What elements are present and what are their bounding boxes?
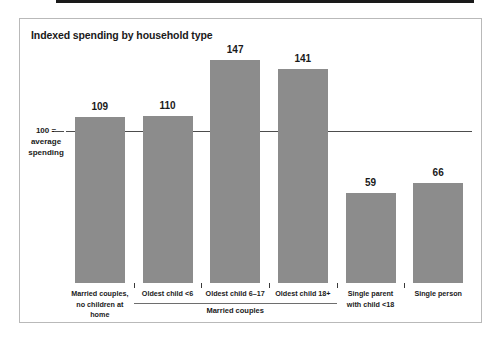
bar [210,60,260,283]
category-label-line: Oldest child <6 [134,289,202,300]
group-bracket-line [134,303,337,304]
bar-value-label: 147 [201,44,269,55]
bar [75,117,125,283]
bar-value-label: 59 [337,177,405,188]
chart-figure: Indexed spending by household type 100 =… [0,0,501,355]
category-label: Oldest child 18+ [269,289,337,300]
x-axis-tick [337,283,338,288]
bar-value-label: 141 [269,53,337,64]
category-label: Married couples,no children at home [66,289,134,321]
x-axis-tick [201,283,202,288]
category-label: Oldest child <6 [134,289,202,300]
y-axis-reference-label: 100 = average spending [24,125,68,158]
category-label-line: Single parent [337,289,405,300]
bar [346,193,396,283]
category-label: Single person [404,289,472,300]
bar-value-label: 66 [404,167,472,178]
x-axis-baseline [56,0,474,3]
plot-area: 1091101471415966 [66,40,472,283]
reference-line-100 [66,131,472,132]
bar-value-label: 109 [66,101,134,112]
category-label-line: no children at home [66,300,134,321]
bar [278,69,328,283]
category-label: Oldest child 6–17 [201,289,269,300]
x-axis-tick [404,283,405,288]
category-label-line: Single person [404,289,472,300]
y-axis-label-line-2: average [24,136,68,147]
category-label-line: Married couples, [66,289,134,300]
bar [413,183,463,283]
reference-line-tick [54,131,64,132]
bar [143,116,193,283]
category-label-line: Oldest child 6–17 [201,289,269,300]
x-axis-tick [134,283,135,288]
category-label: Single parentwith child <18 [337,289,405,310]
y-axis-label-line-3: spending [24,147,68,158]
category-label-line: with child <18 [337,300,405,311]
bar-value-label: 110 [134,100,202,111]
category-label-line: Oldest child 18+ [269,289,337,300]
group-label-married-couples: Married couples [134,306,337,315]
x-axis-tick [269,283,270,288]
